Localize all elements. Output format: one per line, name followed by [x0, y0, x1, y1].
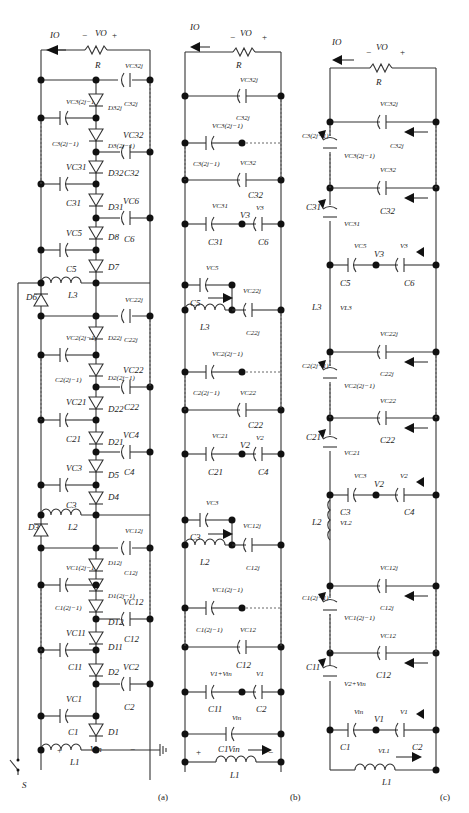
svg-text:C32j: C32j	[236, 114, 250, 122]
svg-text:+: +	[112, 30, 117, 40]
svg-text:VO: VO	[376, 42, 388, 52]
svg-text:VC32: VC32	[123, 130, 144, 140]
svg-text:VL2: VL2	[340, 519, 352, 527]
svg-text:V2: V2	[374, 479, 384, 489]
svg-text:C2: C2	[124, 702, 135, 712]
svg-text:C1: C1	[68, 727, 79, 737]
svg-text:VC12j: VC12j	[380, 564, 398, 572]
svg-text:VC32j: VC32j	[125, 62, 143, 70]
svg-text:VC5: VC5	[354, 242, 367, 250]
svg-text:VL3: VL3	[340, 304, 352, 312]
svg-text:C6: C6	[258, 237, 269, 247]
svg-text:Vin: Vin	[232, 714, 242, 722]
svg-text:V2: V2	[256, 434, 264, 442]
svg-text:C1: C1	[218, 744, 229, 754]
svg-text:C2: C2	[412, 742, 423, 752]
svg-text:D1(2j−1): D1(2j−1)	[107, 592, 136, 600]
svg-text:C12: C12	[376, 670, 392, 680]
svg-text:R: R	[235, 60, 242, 70]
svg-text:VC11: VC11	[66, 628, 86, 638]
svg-text:D1: D1	[107, 727, 119, 737]
svg-text:D32: D32	[107, 168, 124, 178]
svg-text:V1: V1	[256, 670, 264, 678]
svg-text:VC22: VC22	[380, 397, 396, 405]
svg-text:−: −	[130, 744, 135, 754]
svg-text:VC1(2j−1): VC1(2j−1)	[212, 586, 243, 594]
svg-text:L2: L2	[67, 522, 78, 532]
svg-text:VC22j: VC22j	[243, 287, 261, 295]
switch-label: S	[22, 780, 27, 790]
svg-text:VC31: VC31	[344, 220, 360, 228]
svg-text:C3(2j−1): C3(2j−1)	[302, 132, 329, 140]
io-arrow-icon	[46, 45, 58, 55]
svg-text:Vin: Vin	[354, 708, 364, 716]
svg-text:VC3: VC3	[354, 472, 367, 480]
svg-text:L3: L3	[311, 302, 322, 312]
svg-text:D32j: D32j	[107, 104, 122, 112]
svg-text:VC3: VC3	[66, 463, 83, 473]
svg-text:C21: C21	[66, 434, 81, 444]
svg-text:C22: C22	[380, 435, 396, 445]
svg-text:C2(2j−1): C2(2j−1)	[55, 376, 82, 384]
svg-text:−: −	[366, 47, 371, 57]
svg-text:C21: C21	[208, 467, 223, 477]
svg-text:VC3(2j−1): VC3(2j−1)	[212, 122, 243, 130]
svg-text:C4: C4	[258, 467, 269, 477]
svg-text:VC22j: VC22j	[380, 330, 398, 338]
svg-text:C11: C11	[208, 704, 222, 714]
switch-s[interactable]	[10, 759, 20, 772]
svg-text:C5: C5	[190, 298, 201, 308]
svg-text:VC32: VC32	[240, 159, 256, 167]
svg-text:C22j: C22j	[380, 370, 394, 378]
load-resistor	[85, 46, 107, 54]
svg-text:L1: L1	[381, 777, 392, 787]
svg-text:−: −	[230, 32, 235, 42]
svg-text:VC21: VC21	[344, 449, 360, 457]
panel-a: S + Vin − (a) L1 D1 D2 C1 VC1	[10, 28, 168, 802]
svg-text:C32: C32	[248, 190, 264, 200]
svg-text:C5: C5	[66, 264, 77, 274]
svg-text:C21: C21	[306, 432, 321, 442]
svg-text:V2+Vin: V2+Vin	[344, 680, 366, 688]
svg-text:C12j: C12j	[246, 564, 260, 572]
panel-label-b: (b)	[290, 792, 301, 802]
svg-text:VC12j: VC12j	[125, 527, 143, 535]
svg-text:C3(2j−1): C3(2j−1)	[193, 160, 220, 168]
svg-text:VO: VO	[240, 28, 252, 38]
svg-text:L3: L3	[199, 322, 210, 332]
svg-text:C22j: C22j	[124, 336, 138, 344]
svg-text:C6: C6	[404, 278, 415, 288]
svg-text:C1(2j−1): C1(2j−1)	[196, 626, 223, 634]
svg-text:VC22: VC22	[240, 389, 256, 397]
svg-text:VC3: VC3	[206, 499, 219, 507]
svg-text:VC5: VC5	[66, 228, 83, 238]
svg-text:D31: D31	[107, 202, 124, 212]
svg-text:V2: V2	[240, 440, 250, 450]
svg-text:VC32: VC32	[380, 166, 396, 174]
svg-text:VC12: VC12	[380, 632, 396, 640]
svg-text:VC5: VC5	[206, 264, 219, 272]
svg-text:D3(2j−1): D3(2j−1)	[107, 142, 136, 150]
svg-text:C1(2j−1): C1(2j−1)	[302, 594, 329, 602]
svg-text:VC12: VC12	[240, 626, 256, 634]
svg-text:C12: C12	[124, 634, 140, 644]
svg-text:C12j: C12j	[124, 569, 138, 577]
svg-text:VC21: VC21	[212, 432, 228, 440]
circuit-figure: S + Vin − (a) L1 D1 D2 C1 VC1	[0, 0, 469, 813]
svg-text:D22j: D22j	[107, 334, 122, 342]
svg-text:VC31: VC31	[66, 162, 87, 172]
svg-text:V3: V3	[256, 204, 264, 212]
svg-text:V1: V1	[374, 714, 384, 724]
svg-text:VC2: VC2	[123, 662, 140, 672]
svg-text:D7: D7	[107, 262, 119, 272]
svg-text:V3: V3	[240, 210, 250, 220]
svg-text:D12j: D12j	[107, 559, 122, 567]
svg-text:C31: C31	[306, 202, 321, 212]
svg-text:D21: D21	[107, 437, 124, 447]
panel-b: + Vin − (b) L1 C1 Vin C11 V1+Vin C2 V1 C…	[182, 22, 301, 802]
svg-text:C22j: C22j	[246, 329, 260, 337]
svg-text:Vin: Vin	[228, 744, 240, 754]
svg-text:VC2(2j−1): VC2(2j−1)	[212, 350, 243, 358]
svg-text:D3: D3	[27, 522, 39, 532]
svg-text:C32: C32	[380, 206, 396, 216]
